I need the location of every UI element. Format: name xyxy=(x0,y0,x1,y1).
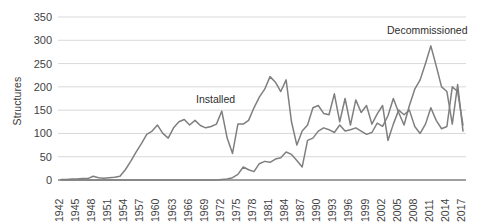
x-tick-label: 1948 xyxy=(85,199,97,222)
x-tick-label: 1966 xyxy=(182,199,194,222)
x-tick-label: 2002 xyxy=(375,199,387,222)
x-tick-label: 1960 xyxy=(149,199,161,222)
x-tick-label: 1996 xyxy=(342,199,354,222)
x-tick-label: 1978 xyxy=(246,199,258,222)
series-lines xyxy=(61,46,463,180)
x-tick-label: 1945 xyxy=(69,199,81,222)
series-line-installed xyxy=(61,77,463,180)
y-tick-label: 50 xyxy=(16,151,52,163)
y-tick-label: 150 xyxy=(16,104,52,116)
y-axis-ticks: 050100150200250300350 xyxy=(12,0,52,222)
chart-container: Structures 050100150200250300350 1942194… xyxy=(0,0,479,222)
x-tick-label: 1957 xyxy=(133,199,145,222)
x-tick-label: 2008 xyxy=(407,199,419,222)
x-tick-label: 1990 xyxy=(310,199,322,222)
x-tick-label: 2014 xyxy=(439,199,451,222)
x-tick-label: 1999 xyxy=(359,199,371,222)
y-tick-label: 300 xyxy=(16,34,52,46)
y-tick-label: 250 xyxy=(16,58,52,70)
y-tick-label: 350 xyxy=(16,11,52,23)
y-tick-label: 100 xyxy=(16,127,52,139)
x-tick-label: 1993 xyxy=(326,199,338,222)
x-tick-label: 1963 xyxy=(166,199,178,222)
x-tick-label: 1942 xyxy=(53,199,65,222)
x-tick-label: 1987 xyxy=(294,199,306,222)
gridlines xyxy=(58,17,466,157)
y-tick-label: 0 xyxy=(16,174,52,186)
x-tick-label: 1951 xyxy=(101,199,113,222)
x-tick-label: 1969 xyxy=(198,199,210,222)
x-axis-ticks: 1942194519481951195419571960196319661969… xyxy=(58,183,466,222)
x-tick-label: 1972 xyxy=(214,199,226,222)
series-label-installed: Installed xyxy=(195,93,236,105)
y-tick-label: 200 xyxy=(16,81,52,93)
x-tick-label: 2017 xyxy=(455,199,467,222)
x-tick-label: 1984 xyxy=(278,199,290,222)
x-tick-label: 1975 xyxy=(230,199,242,222)
x-tick-label: 1981 xyxy=(262,199,274,222)
x-tick-label: 2005 xyxy=(391,199,403,222)
x-tick-label: 2011 xyxy=(423,199,435,222)
x-tick-label: 1954 xyxy=(117,199,129,222)
series-label-decommissioned: Decommissioned xyxy=(386,24,469,36)
